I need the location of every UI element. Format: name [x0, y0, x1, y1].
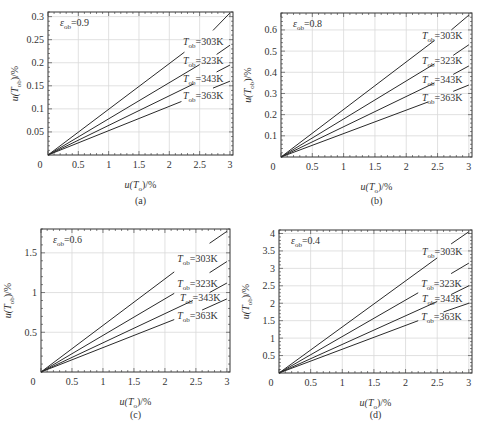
- x-tick-label: 1: [100, 376, 105, 387]
- y-tick-label: 0.6: [265, 24, 278, 35]
- x-tick-label: 1: [106, 159, 111, 170]
- emissivity-annotation: εob=0.6: [53, 234, 82, 248]
- panel-caption: (b): [371, 195, 383, 207]
- x-tick-label: 2.5: [431, 161, 444, 172]
- series-label: Tob=343K: [422, 74, 463, 88]
- y-axis-label: u(Tob)/%: [2, 283, 16, 318]
- x-tick-label: 1.5: [133, 159, 146, 170]
- x-tick-label: 3: [466, 161, 471, 172]
- y-tick-label: 1.5: [25, 247, 38, 258]
- y-tick-label: 0.2: [265, 109, 278, 120]
- x-tick-label: 2.5: [431, 377, 444, 388]
- x-tick-label: 2.5: [190, 376, 203, 387]
- x-axis-label: u(To)/%: [125, 179, 157, 193]
- chart-panel-d: 0.511.522.530.511.522.533.540u(To)/%u(To…: [240, 228, 472, 421]
- series-label: Tob=323K: [183, 55, 224, 69]
- y-tick-label: 4: [270, 228, 275, 239]
- y-tick-label: 0.3: [32, 11, 45, 22]
- origin-label: 0: [31, 376, 36, 387]
- x-tick-label: 2: [404, 161, 409, 172]
- y-tick-label: 0.5: [263, 350, 276, 361]
- origin-label: 0: [269, 377, 274, 388]
- series-label: Tob=363K: [183, 90, 224, 104]
- y-tick-label: 3.5: [263, 245, 276, 256]
- y-tick-label: 3: [270, 263, 275, 274]
- y-tick-label: 0.1: [32, 103, 45, 114]
- x-tick-label: 2: [167, 159, 172, 170]
- panel-caption: (c): [130, 409, 141, 421]
- y-axis-label: u(Tob)/%: [242, 67, 256, 102]
- x-tick-label: 3: [224, 376, 229, 387]
- x-axis-label: u(To)/%: [361, 181, 393, 195]
- series-label: Tob=363K: [421, 311, 462, 325]
- y-axis-label: u(Tob)/%: [9, 66, 23, 101]
- series-label: Tob=343K: [183, 73, 224, 87]
- y-tick-label: 0.5: [265, 46, 278, 57]
- series-label: Tob=303K: [422, 246, 463, 260]
- series-label: Tob=343K: [180, 292, 221, 306]
- y-tick-label: 0.1: [265, 130, 278, 141]
- panel-caption: (d): [370, 409, 382, 421]
- y-tick-label: 2.5: [263, 280, 276, 291]
- x-tick-label: 3: [466, 377, 471, 388]
- y-tick-label: 1.5: [263, 315, 276, 326]
- x-tick-label: 1.5: [369, 161, 382, 172]
- x-tick-label: 1.5: [368, 377, 381, 388]
- y-tick-label: 0.25: [27, 34, 45, 45]
- y-tick-label: 0.05: [27, 126, 45, 137]
- panel-caption: (a): [135, 195, 146, 207]
- y-tick-label: 0.2: [32, 57, 45, 68]
- x-tick-label: 2.5: [193, 159, 206, 170]
- y-tick-label: 2: [270, 298, 275, 309]
- x-tick-label: 0.5: [306, 161, 319, 172]
- x-tick-label: 3: [227, 159, 232, 170]
- figure-svg: 0.511.522.530.050.10.150.20.250.30u(To)/…: [0, 0, 480, 434]
- y-tick-label: 0.4: [265, 67, 278, 78]
- x-tick-label: 1.5: [128, 376, 141, 387]
- y-tick-label: 1: [32, 287, 37, 298]
- x-tick-label: 2: [162, 376, 167, 387]
- chart-panel-b: 0.511.522.530.10.20.30.40.50.60u(To)/%u(…: [242, 13, 472, 207]
- series-label: Tob=303K: [422, 30, 463, 44]
- x-tick-label: 1: [341, 161, 346, 172]
- series-label: Tob=303K: [183, 36, 224, 50]
- x-tick-label: 0.5: [72, 159, 85, 170]
- emissivity-annotation: εob=0.4: [291, 235, 320, 249]
- y-tick-label: 0.3: [265, 88, 278, 99]
- origin-label: 0: [38, 159, 43, 170]
- series-label: Tob=363K: [177, 310, 218, 324]
- series-label: Tob=323K: [422, 55, 463, 69]
- x-axis-label: u(To)/%: [120, 396, 152, 410]
- y-axis-label: u(Tob)/%: [240, 284, 254, 319]
- x-tick-label: 0.5: [304, 377, 317, 388]
- series-label: Tob=323K: [421, 278, 462, 292]
- chart-panel-c: 0.511.522.530.511.50u(To)/%u(Tob)/%εob=0…: [2, 229, 230, 421]
- series-label: Tob=323K: [177, 278, 218, 292]
- y-tick-label: 1: [270, 333, 275, 344]
- y-tick-label: 0.15: [27, 80, 45, 91]
- x-tick-label: 1: [340, 377, 345, 388]
- y-tick-label: 0.5: [25, 327, 38, 338]
- emissivity-annotation: εob=0.9: [60, 17, 89, 31]
- series-label: Tob=303K: [177, 253, 218, 267]
- x-tick-label: 2: [403, 377, 408, 388]
- origin-label: 0: [271, 161, 276, 172]
- series-label: Tob=343K: [422, 293, 463, 307]
- chart-panel-a: 0.511.522.530.050.10.150.20.250.30u(To)/…: [9, 11, 233, 207]
- x-tick-label: 0.5: [66, 376, 79, 387]
